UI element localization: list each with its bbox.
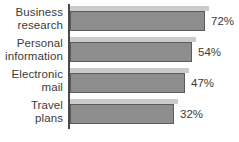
- chart-bar-row: Travel plans 32%: [0, 99, 239, 129]
- bar-category-label: Business research: [0, 6, 63, 31]
- bar-value-label: 54%: [198, 45, 221, 59]
- bar-category-label-line1: Travel: [0, 99, 63, 112]
- bar-category-label-line2: mail: [0, 81, 63, 94]
- bar-fill: [70, 73, 185, 93]
- bar-fill: [70, 42, 192, 62]
- chart-bar-row: Business research 72%: [0, 6, 239, 36]
- chart-bar-row: Electronic mail 47%: [0, 68, 239, 98]
- chart-bar-row: Personal information 54%: [0, 37, 239, 67]
- bar-category-label-line1: Personal: [0, 37, 63, 50]
- bar-category-label: Electronic mail: [0, 68, 63, 93]
- bar-category-label-line2: information: [0, 50, 63, 63]
- bar-value-label: 32%: [180, 107, 203, 121]
- bar-category-label-line2: plans: [0, 112, 63, 125]
- bar-category-label-line1: Business: [0, 6, 63, 19]
- bar-category-label-line2: research: [0, 19, 63, 32]
- bar-fill: [70, 104, 174, 124]
- bar-category-label-line1: Electronic: [0, 68, 63, 81]
- bar-value-label: 72%: [211, 14, 234, 28]
- bar-value-label: 47%: [191, 76, 214, 90]
- bar-fill: [70, 11, 205, 31]
- horizontal-bar-chart: Business research 72% Personal informati…: [0, 0, 239, 142]
- bar-category-label: Personal information: [0, 37, 63, 62]
- bar-category-label: Travel plans: [0, 99, 63, 124]
